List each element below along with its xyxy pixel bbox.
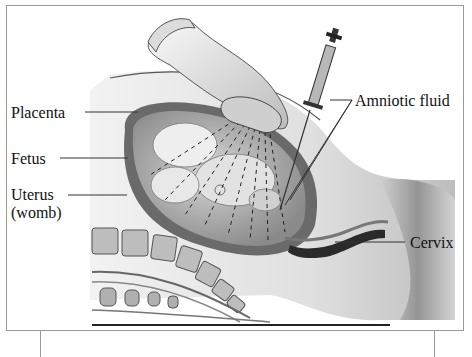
label-fetus: Fetus — [11, 150, 46, 167]
label-placenta: Placenta — [11, 104, 65, 121]
amniocentesis-illustration — [0, 0, 472, 357]
label-uterus: Uterus — [11, 186, 54, 203]
body-lower-contour — [92, 310, 270, 322]
label-uterus-womb: (womb) — [11, 204, 62, 221]
label-cervix: Cervix — [410, 234, 454, 251]
label-amniotic-fluid: Amniotic fluid — [355, 92, 450, 109]
